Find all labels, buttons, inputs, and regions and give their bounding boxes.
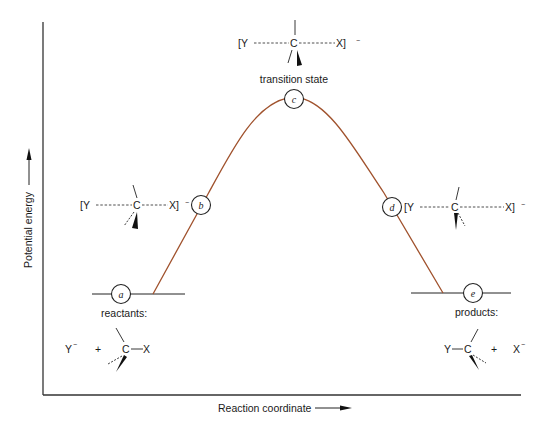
reactants-label: reactants: — [101, 307, 147, 319]
svg-text:C: C — [464, 343, 472, 355]
svg-text:[Y: [Y — [404, 201, 414, 213]
y-axis-label-group: Potential energy — [22, 191, 34, 268]
svg-text:X]: X] — [169, 199, 179, 211]
svg-text:a: a — [119, 289, 124, 300]
point-e: e — [464, 284, 483, 303]
svg-text:Y: Y — [444, 343, 451, 355]
svg-text:−: − — [185, 199, 189, 206]
point-a: a — [112, 285, 131, 304]
svg-text:[Y: [Y — [80, 199, 90, 211]
energy-curve — [153, 98, 443, 294]
reactants-structure: Y − + C X — [65, 328, 150, 372]
svg-text:C: C — [133, 199, 141, 211]
svg-text:+: + — [95, 343, 101, 355]
y-axis-arrow-icon — [27, 148, 32, 185]
svg-text:−: − — [521, 201, 525, 208]
svg-text:X]: X] — [336, 37, 346, 49]
products-label: products: — [455, 306, 498, 318]
svg-text:[Y: [Y — [238, 37, 248, 49]
point-c: c — [285, 90, 304, 109]
x-axis-arrow-icon — [315, 406, 352, 411]
svg-text:C: C — [451, 201, 459, 213]
x-axis-label: Reaction coordinate — [218, 402, 312, 414]
svg-text:c: c — [292, 94, 297, 105]
svg-text:e: e — [471, 288, 476, 299]
products-structure: Y C + X − — [444, 329, 525, 370]
structure-b: [Y C X] − — [80, 185, 189, 229]
svg-text:X]: X] — [505, 201, 515, 213]
transition-state-label: transition state — [260, 73, 328, 85]
svg-text:X: X — [513, 343, 520, 355]
svg-text:−: − — [521, 341, 525, 348]
structure-d: [Y C X] − — [404, 187, 525, 230]
svg-text:C: C — [122, 343, 130, 355]
svg-text:−: − — [73, 341, 77, 348]
svg-text:X: X — [143, 343, 150, 355]
svg-text:C: C — [290, 37, 298, 49]
svg-text:Y: Y — [65, 343, 72, 355]
y-axis-label: Potential energy — [22, 191, 34, 268]
svg-text:−: − — [356, 37, 360, 44]
point-d: d — [383, 198, 402, 217]
svg-text:b: b — [199, 200, 204, 211]
point-b: b — [192, 196, 211, 215]
energy-diagram: Potential energy Reaction coordinate a b… — [0, 0, 546, 421]
transition-state-structure: [Y C X] − — [238, 20, 360, 66]
svg-text:+: + — [491, 343, 497, 355]
